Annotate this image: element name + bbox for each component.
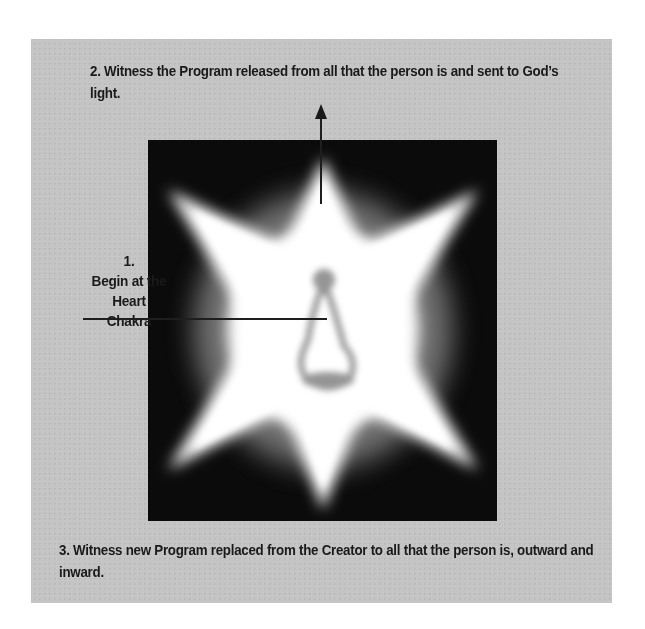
upward-arrow-shaft (320, 117, 322, 204)
arrow-up-icon (315, 104, 327, 119)
step-1-number: 1. (89, 251, 170, 271)
step-1-line2: Heart Chakra (89, 291, 170, 331)
step-2-caption: 2. Witness the Program released from all… (90, 60, 572, 104)
step-3-caption: 3. Witness new Program replaced from the… (59, 539, 609, 583)
radiant-star-figure (148, 140, 497, 521)
heart-chakra-pointer-line (83, 318, 327, 320)
step-1-line1: Begin at the (89, 271, 170, 291)
star-light-icon (148, 140, 497, 521)
